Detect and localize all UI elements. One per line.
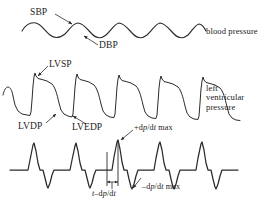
t-dpdt-label: t–dp/dt (92, 190, 116, 199)
dpdt-max-positive-slash: /d (147, 123, 154, 132)
sbp-label: SBP (30, 7, 47, 17)
t-dpdt-slash: /d (107, 189, 114, 198)
dbp-label: DBP (99, 40, 118, 50)
cardiac-waveform-figure: SBP DBP blood pressure LVSP LVDP LVEDP l… (0, 0, 271, 206)
dpdt-max-positive-leader-line (121, 130, 133, 140)
sbp-leader-line (55, 14, 72, 24)
dpdt-max-negative-label: –dp/dt max (142, 183, 180, 192)
dpdt-max-positive-label: +dp/dt max (134, 124, 173, 133)
lvdp-leader-line (46, 114, 56, 123)
lvsp-label: LVSP (49, 59, 72, 69)
dpdt-max-positive-sign: +d (134, 123, 143, 132)
lvsp-leader-line (38, 66, 48, 76)
lvdp-label: LVDP (18, 121, 42, 131)
dpdt-max-positive-tail: max (156, 123, 173, 132)
lv-pressure-side-label-line3: pressure (206, 103, 244, 112)
dpdt-trace (10, 140, 238, 189)
blood-pressure-side-label: blood pressure (206, 27, 258, 36)
t-dpdt-t2: t (114, 189, 116, 198)
dpdt-max-negative-tail: max (164, 182, 181, 191)
blood-pressure-trace (22, 23, 206, 38)
lv-pressure-side-label: left ventricular pressure (206, 84, 244, 112)
t-dpdt-dash: –d (94, 189, 102, 198)
lv-pressure-trace (3, 73, 240, 121)
lvedp-label: LVEDP (72, 122, 102, 132)
